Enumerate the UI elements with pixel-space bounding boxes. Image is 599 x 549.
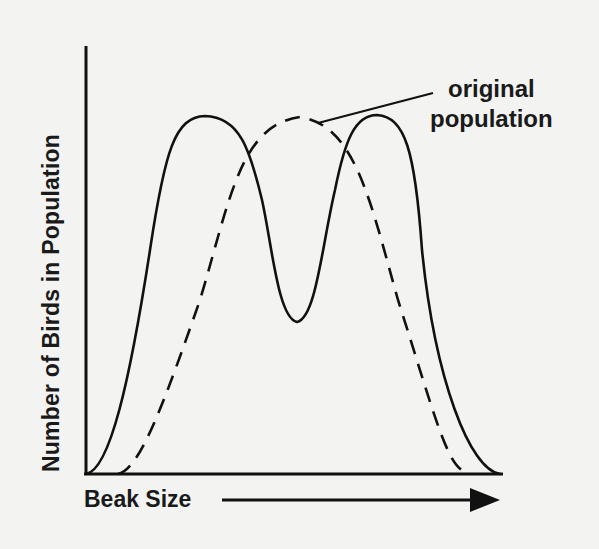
- x-axis-label: Beak Size: [84, 486, 191, 513]
- annotation-line-2: population: [430, 104, 553, 134]
- original-population-curve: [118, 117, 462, 474]
- annotation-leader-line: [318, 93, 433, 123]
- y-axis-label: Number of Birds in Population: [38, 134, 65, 472]
- annotation-line-1: original: [430, 74, 553, 104]
- annotation-label: original population: [430, 74, 553, 134]
- new-population-curve: [86, 115, 500, 474]
- x-axis-arrow-head-icon: [470, 488, 500, 512]
